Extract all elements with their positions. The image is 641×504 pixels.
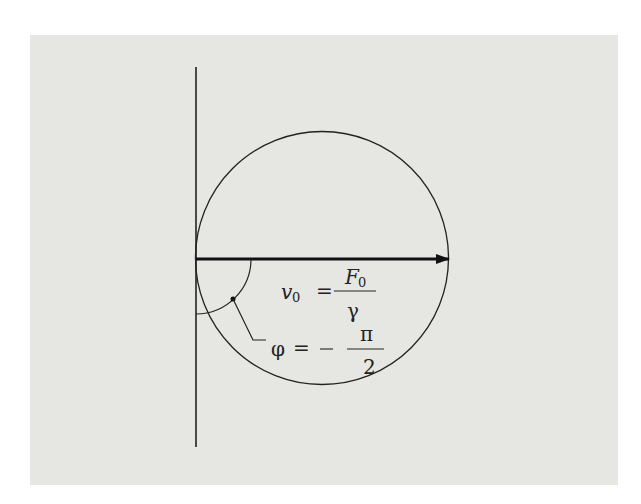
equals-sign: = <box>293 336 310 360</box>
phasor-diagram: v 0 = F 0 γ φ = π 2 <box>0 0 641 504</box>
phase-leader-line <box>233 299 266 340</box>
pi-symbol: π <box>360 322 373 346</box>
gamma-symbol: γ <box>347 299 359 323</box>
phi-symbol: φ <box>271 337 285 361</box>
velocity-amplitude-label: v 0 = F 0 γ <box>281 265 376 323</box>
phase-label: φ = π 2 <box>271 322 384 379</box>
force-subscript: 0 <box>358 275 366 290</box>
equals-sign: = <box>316 279 333 303</box>
two-denominator: 2 <box>363 355 376 379</box>
v-subscript: 0 <box>292 290 300 305</box>
